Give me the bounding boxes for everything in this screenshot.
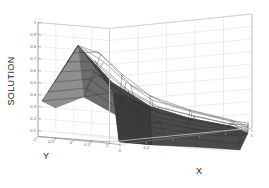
z-tick-label: 0.2: [30, 116, 36, 121]
z-tick-label: 0.8: [30, 44, 36, 49]
x-tick-label: 0.2: [144, 145, 150, 150]
z-tick-label: 0.7: [30, 56, 36, 61]
x-tick-label: 1: [251, 133, 254, 138]
x-tick-label: 0: [119, 148, 122, 153]
y-tick-label: 0: [70, 140, 73, 145]
y-tick-label: 1: [106, 143, 109, 148]
z-tick-label: 0.4: [30, 92, 36, 97]
x-axis-title: X: [196, 166, 202, 176]
z-axis-title: SOLUTION: [6, 48, 16, 114]
y-axis-title: Y: [43, 151, 49, 161]
y-tick-label: -0.5: [47, 139, 55, 144]
x-tick-label: 0.8: [223, 136, 229, 141]
z-axis-tick-labels: 1 0.9 0.8 0.7 0.6 0.5 0.4 0.3 0.2 0.1: [30, 20, 36, 133]
z-tick-label: 0.1: [30, 128, 36, 133]
y-tick-label: -1: [32, 137, 36, 142]
z-axis-ticks: [38, 23, 41, 132]
z-tick-label: 0.5: [30, 80, 36, 85]
surface-plot-figure: 1 0.9 0.8 0.7 0.6 0.5 0.4 0.3 0.2 0.1 -1…: [0, 0, 269, 188]
y-tick-label: 0.5: [84, 142, 90, 147]
z-tick-label: 0.9: [30, 32, 36, 37]
x-tick-label: 0.6: [196, 139, 202, 144]
z-tick-label: 1: [34, 20, 37, 25]
z-tick-label: 0.3: [30, 104, 36, 109]
z-tick-label: 0.6: [30, 68, 36, 73]
plot-canvas: 1 0.9 0.8 0.7 0.6 0.5 0.4 0.3 0.2 0.1 -1…: [0, 0, 269, 188]
x-tick-label: 0.4: [170, 142, 176, 147]
